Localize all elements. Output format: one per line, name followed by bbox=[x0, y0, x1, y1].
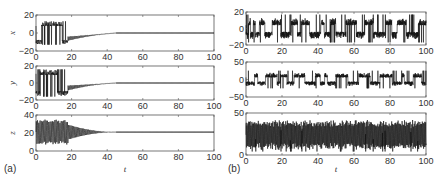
figure: −20020020406080100x−20020020406080100y02… bbox=[0, 0, 444, 180]
x-tick-label: 80 bbox=[173, 152, 183, 162]
subplot-y: −20020020406080100y bbox=[7, 61, 222, 111]
x-tick-label: 20 bbox=[67, 52, 77, 62]
y-tick-label: 0 bbox=[239, 75, 244, 85]
x-axis-label: t bbox=[124, 164, 127, 174]
y-tick-label: −20 bbox=[19, 46, 34, 56]
subplot-b2: 050020406080100 bbox=[234, 108, 434, 166]
x-tick-label: 40 bbox=[313, 46, 323, 56]
panel-label: (b) bbox=[228, 163, 240, 174]
x-tick-label: 40 bbox=[313, 156, 323, 166]
y-tick-label: 50 bbox=[234, 57, 244, 67]
series-line bbox=[36, 21, 214, 44]
y-tick-label: 20 bbox=[24, 128, 34, 138]
x-tick-label: 20 bbox=[67, 152, 77, 162]
x-tick-label: 80 bbox=[385, 98, 395, 108]
y-axis-label: x bbox=[7, 31, 17, 36]
y-tick-label: 20 bbox=[234, 7, 244, 17]
x-tick-label: 80 bbox=[385, 156, 395, 166]
subplot-b1: −50050020406080100 bbox=[229, 57, 434, 108]
x-tick-label: 60 bbox=[138, 52, 148, 62]
series-line bbox=[246, 71, 426, 89]
x-tick-label: 60 bbox=[138, 152, 148, 162]
x-tick-label: 0 bbox=[33, 101, 38, 111]
x-tick-label: 80 bbox=[173, 52, 183, 62]
y-tick-label: −50 bbox=[229, 92, 244, 102]
x-tick-label: 100 bbox=[418, 98, 433, 108]
x-tick-label: 60 bbox=[349, 156, 359, 166]
x-tick-label: 100 bbox=[206, 52, 221, 62]
x-tick-label: 0 bbox=[243, 46, 248, 56]
y-tick-label: 0 bbox=[29, 28, 34, 38]
x-tick-label: 100 bbox=[418, 156, 433, 166]
y-tick-label: 20 bbox=[24, 10, 34, 20]
x-tick-label: 100 bbox=[418, 46, 433, 56]
x-tick-label: 60 bbox=[349, 98, 359, 108]
y-axis-label: y bbox=[7, 81, 17, 86]
x-tick-label: 20 bbox=[277, 156, 287, 166]
x-tick-label: 0 bbox=[33, 52, 38, 62]
x-tick-label: 0 bbox=[243, 98, 248, 108]
x-tick-label: 100 bbox=[206, 101, 221, 111]
x-tick-label: 0 bbox=[243, 156, 248, 166]
panel-a: −20020020406080100x−20020020406080100y02… bbox=[4, 10, 222, 174]
x-tick-label: 0 bbox=[33, 152, 38, 162]
y-axis-label: z bbox=[7, 131, 17, 136]
series-line bbox=[36, 69, 214, 96]
x-tick-label: 60 bbox=[349, 46, 359, 56]
x-tick-label: 80 bbox=[173, 101, 183, 111]
y-tick-label: 40 bbox=[24, 110, 34, 120]
subplot-x: −20020020406080100x bbox=[7, 10, 222, 62]
x-tick-label: 60 bbox=[138, 101, 148, 111]
y-tick-label: −20 bbox=[19, 95, 34, 105]
x-tick-label: 80 bbox=[385, 46, 395, 56]
y-tick-label: 0 bbox=[239, 24, 244, 34]
x-tick-label: 40 bbox=[313, 98, 323, 108]
panel-label: (a) bbox=[4, 163, 16, 174]
series-line bbox=[36, 120, 214, 145]
x-tick-label: 40 bbox=[102, 52, 112, 62]
x-tick-label: 40 bbox=[102, 101, 112, 111]
y-tick-label: 0 bbox=[29, 78, 34, 88]
series-line bbox=[246, 15, 426, 43]
y-tick-label: −20 bbox=[229, 40, 244, 50]
x-tick-label: 100 bbox=[206, 152, 221, 162]
subplot-z: 02040020406080100z bbox=[7, 110, 222, 162]
x-tick-label: 20 bbox=[277, 98, 287, 108]
series-line bbox=[246, 120, 426, 152]
subplot-b0: −20020020406080100 bbox=[229, 7, 434, 56]
x-tick-label: 20 bbox=[277, 46, 287, 56]
y-tick-label: 20 bbox=[24, 61, 34, 71]
x-axis-label: t bbox=[335, 164, 338, 174]
y-tick-label: 50 bbox=[234, 108, 244, 118]
panel-b: −20020020406080100−500500204060801000500… bbox=[228, 7, 434, 174]
x-tick-label: 20 bbox=[67, 101, 77, 111]
x-tick-label: 40 bbox=[102, 152, 112, 162]
